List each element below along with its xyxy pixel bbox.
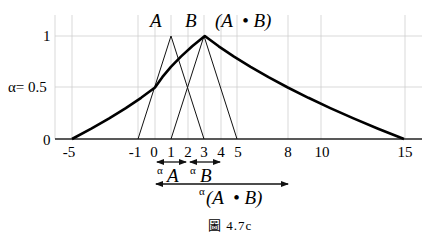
cut-A-sup: α bbox=[157, 164, 163, 176]
y-tick-1: 1 bbox=[43, 28, 51, 44]
x-tick: 5 bbox=[234, 144, 242, 160]
x-tick: 1 bbox=[167, 144, 175, 160]
y-tick-0.5: α= 0.5 bbox=[8, 79, 47, 95]
x-tick: 10 bbox=[315, 144, 330, 160]
x-tick: 2 bbox=[184, 144, 192, 160]
cut-B-sup: α bbox=[190, 164, 196, 176]
x-tick-labels: -5 -1 0 1 2 3 4 5 8 10 15 bbox=[63, 144, 413, 160]
x-tick: 3 bbox=[200, 144, 208, 160]
x-tick: 15 bbox=[398, 144, 413, 160]
figure-caption: 圖 4.7c bbox=[208, 218, 252, 233]
cut-product-label: (A • B) bbox=[206, 187, 262, 209]
x-tick: -1 bbox=[129, 144, 142, 160]
series-product bbox=[72, 36, 404, 139]
label-product: (A • B) bbox=[215, 10, 271, 32]
cut-product-sup: α bbox=[199, 185, 205, 197]
cut-A-label: A bbox=[165, 165, 179, 186]
grid bbox=[55, 15, 422, 139]
cut-B-label: B bbox=[200, 165, 212, 186]
x-tick: -5 bbox=[63, 144, 76, 160]
y-tick-0: 0 bbox=[43, 132, 51, 148]
label-A: A bbox=[148, 10, 162, 31]
fuzzy-product-diagram: A B (A • B) 1 α= 0.5 0 -5 -1 0 1 2 3 4 5… bbox=[0, 0, 435, 240]
x-tick: 8 bbox=[284, 144, 292, 160]
x-tick: 4 bbox=[217, 144, 225, 160]
x-tick: 0 bbox=[150, 144, 158, 160]
label-B: B bbox=[185, 10, 197, 31]
